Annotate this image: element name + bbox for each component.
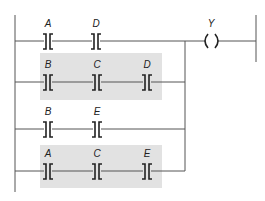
- label-y-coil: Y: [208, 18, 216, 29]
- label-d-rung-2: D: [143, 59, 150, 70]
- label-a-rung-4: A: [44, 148, 52, 159]
- label-c-rung-4: C: [93, 148, 101, 159]
- label-e-rung-4: E: [144, 148, 151, 159]
- contact-e-rung-3: [92, 122, 102, 137]
- label-b-rung-3: B: [45, 106, 52, 117]
- label-a-rung-1: A: [44, 18, 52, 29]
- output-coil-icon: [205, 34, 218, 48]
- contact-d-rung-1: [91, 34, 101, 49]
- label-e-rung-3: E: [94, 106, 101, 117]
- label-c-rung-2: C: [93, 59, 101, 70]
- contact-a-rung-1: [43, 34, 53, 49]
- ladder-diagram: A D Y B C D B E A C E: [0, 0, 265, 201]
- contact-b-rung-3: [43, 122, 53, 137]
- label-d-rung-1: D: [92, 18, 99, 29]
- label-b-rung-2: B: [45, 59, 52, 70]
